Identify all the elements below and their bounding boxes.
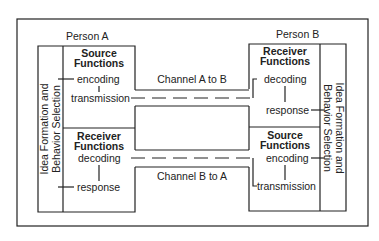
channel-b-to-a-label: Channel B to A xyxy=(157,170,227,182)
person-a-response: response xyxy=(77,181,120,193)
person-a-source-title-2: Functions xyxy=(74,57,124,69)
communication-model-diagram: Person A Idea Formation and Behavior Sel… xyxy=(0,0,379,241)
person-b-receiver-title-2: Functions xyxy=(260,55,310,67)
svg-text:Behavior Selection: Behavior Selection xyxy=(322,84,334,172)
person-a-receiver-title-2: Functions xyxy=(74,140,124,152)
svg-text:Idea Formation and: Idea Formation and xyxy=(334,82,346,173)
person-a-decoding: decoding xyxy=(78,152,121,164)
person-a-transmission: transmission xyxy=(71,92,130,104)
person-b-side-label: Idea Formation and Behavior Selection xyxy=(322,82,346,173)
person-a-encoding: encoding xyxy=(77,73,120,85)
person-b-encoding: encoding xyxy=(266,152,309,164)
person-b-source-title-2: Functions xyxy=(260,139,310,151)
person-a-label: Person A xyxy=(66,30,109,42)
person-b-decoding: decoding xyxy=(264,73,307,85)
person-b-label: Person B xyxy=(276,28,319,40)
outer-frame xyxy=(17,19,368,226)
person-b-transmission: transmission xyxy=(257,180,316,192)
channel-a-to-b-label: Channel A to B xyxy=(157,73,226,85)
svg-text:Behavior Selection: Behavior Selection xyxy=(50,85,62,173)
svg-text:Idea Formation and: Idea Formation and xyxy=(38,83,50,174)
person-b-response: response xyxy=(266,104,309,116)
person-a-side-label: Idea Formation and Behavior Selection xyxy=(38,83,62,174)
